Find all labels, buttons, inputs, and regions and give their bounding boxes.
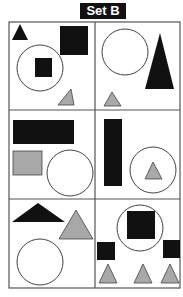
gray-triangle-1 — [99, 264, 117, 283]
black-square-in-circle — [35, 58, 52, 77]
tall-black-triangle — [145, 33, 174, 89]
black-square-right — [163, 240, 180, 258]
cell-4 — [104, 119, 176, 193]
figure-grid — [0, 0, 183, 297]
cell-1 — [12, 24, 88, 105]
tall-black-rectangle — [104, 119, 122, 186]
cell-2 — [102, 29, 174, 106]
black-triangle — [12, 24, 28, 40]
black-square-left — [97, 242, 115, 260]
cell-3 — [13, 120, 93, 196]
flat-black-triangle — [12, 203, 65, 222]
gray-triangle — [58, 89, 74, 105]
circle — [17, 239, 63, 285]
gray-triangle — [59, 210, 93, 239]
cell-6 — [97, 205, 180, 283]
gray-triangle-in-circle — [145, 162, 162, 179]
black-rectangle — [13, 120, 74, 144]
gray-triangle-2 — [134, 264, 152, 283]
gray-triangle — [104, 92, 121, 106]
circle — [47, 150, 93, 196]
circle — [102, 29, 148, 75]
gray-rectangle — [13, 151, 42, 175]
black-square — [60, 26, 88, 55]
gray-triangle-3 — [161, 264, 179, 283]
black-square-in-circle — [127, 211, 155, 239]
cell-5 — [12, 203, 93, 285]
